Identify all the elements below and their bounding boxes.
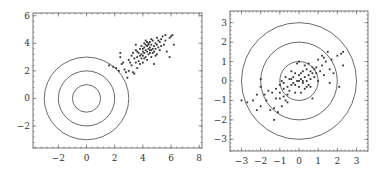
data-point xyxy=(126,77,128,79)
data-point xyxy=(129,62,131,64)
data-point xyxy=(279,92,281,94)
data-point xyxy=(313,76,315,78)
data-point xyxy=(283,96,285,98)
data-point xyxy=(317,59,319,61)
data-point xyxy=(146,59,148,61)
data-point xyxy=(153,45,155,47)
data-point xyxy=(300,78,302,80)
data-point xyxy=(308,74,310,76)
figure: −202468−20246 −3−2−10123−3−2−10123 xyxy=(0,0,384,172)
data-point xyxy=(266,100,268,102)
data-point xyxy=(310,86,312,88)
data-point xyxy=(294,92,296,94)
data-point xyxy=(294,84,296,86)
data-point xyxy=(312,98,314,100)
data-point xyxy=(306,80,308,82)
y-tick-label: 0 xyxy=(24,93,30,103)
data-point xyxy=(283,88,285,90)
data-point xyxy=(150,56,152,58)
right-scatter-plot: −3−2−10123−3−2−10123 xyxy=(214,11,368,166)
y-tick-label: −2 xyxy=(17,121,30,131)
data-point xyxy=(160,45,162,47)
data-point xyxy=(146,41,148,43)
data-point xyxy=(315,66,317,68)
data-point xyxy=(304,65,306,67)
data-point xyxy=(308,84,310,86)
data-point xyxy=(333,72,335,74)
data-point xyxy=(285,100,287,102)
data-point xyxy=(292,76,294,78)
data-point xyxy=(281,80,283,82)
data-point xyxy=(290,84,292,86)
data-point xyxy=(128,59,130,61)
data-point xyxy=(287,101,289,103)
data-point xyxy=(157,40,159,42)
data-point xyxy=(141,45,143,47)
data-point xyxy=(169,56,171,58)
y-tick-label: 2 xyxy=(24,66,30,76)
data-point xyxy=(139,48,141,50)
data-point xyxy=(306,68,308,70)
data-point xyxy=(138,60,140,62)
data-point xyxy=(256,94,258,96)
data-point xyxy=(136,56,138,58)
data-point xyxy=(260,78,262,80)
data-point xyxy=(264,94,266,96)
y-tick-label: 4 xyxy=(24,38,30,48)
data-point xyxy=(298,61,300,63)
x-tick-label: −2 xyxy=(254,156,267,166)
data-point xyxy=(150,44,152,46)
data-point xyxy=(115,67,117,69)
data-point xyxy=(131,55,133,57)
data-point xyxy=(155,55,157,57)
x-tick-label: 3 xyxy=(354,156,360,166)
data-point xyxy=(279,84,281,86)
data-point xyxy=(283,82,285,84)
data-point xyxy=(331,59,333,61)
x-tick-label: 2 xyxy=(334,156,340,166)
y-tick-label: 1 xyxy=(221,57,227,67)
data-point xyxy=(134,58,136,60)
data-point xyxy=(336,55,338,57)
data-point xyxy=(298,86,300,88)
data-point xyxy=(287,86,289,88)
data-point xyxy=(136,51,138,53)
y-tick-label: −3 xyxy=(214,134,228,144)
data-point xyxy=(172,34,174,36)
x-tick-label: −2 xyxy=(52,153,65,163)
data-point xyxy=(139,63,141,65)
data-point xyxy=(139,55,141,57)
data-point xyxy=(163,44,165,46)
data-point xyxy=(287,94,289,96)
contour-circle xyxy=(44,57,128,140)
data-point xyxy=(157,47,159,49)
data-point xyxy=(125,71,127,73)
data-point xyxy=(269,109,271,111)
data-point xyxy=(119,52,121,54)
data-point xyxy=(145,44,147,46)
data-point xyxy=(312,72,314,74)
data-points xyxy=(241,51,344,121)
y-tick-label: 2 xyxy=(221,37,227,47)
data-point xyxy=(281,105,283,107)
data-point xyxy=(321,55,323,57)
data-point xyxy=(108,64,110,66)
data-point xyxy=(156,37,158,39)
data-point xyxy=(155,48,157,50)
data-point xyxy=(156,44,158,46)
data-point xyxy=(267,90,269,92)
data-point xyxy=(256,109,258,111)
data-point xyxy=(131,64,133,66)
y-tick-label: 3 xyxy=(221,18,227,28)
contour-circle xyxy=(58,71,114,126)
data-point xyxy=(319,70,321,72)
data-point xyxy=(164,34,166,36)
data-point xyxy=(300,92,302,94)
y-tick-label: −2 xyxy=(214,115,227,125)
data-point xyxy=(306,86,308,88)
data-point xyxy=(289,78,291,80)
x-tick-label: 6 xyxy=(168,153,174,163)
left-scatter-plot: −202468−20246 xyxy=(17,11,203,163)
data-point xyxy=(285,76,287,78)
y-tick-label: 0 xyxy=(221,76,227,86)
